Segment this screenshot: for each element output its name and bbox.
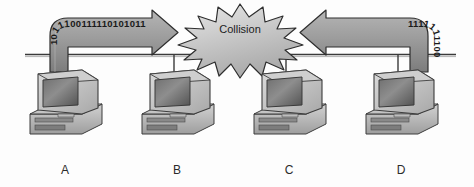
workstation-a bbox=[30, 70, 102, 134]
node-label-d: D bbox=[381, 163, 421, 177]
collision-burst bbox=[178, 4, 303, 78]
collision-label: Collision bbox=[195, 23, 285, 35]
node-label-a: A bbox=[45, 163, 85, 177]
workstation-d bbox=[366, 70, 438, 134]
workstation-c bbox=[254, 70, 326, 134]
node-label-b: B bbox=[157, 163, 197, 177]
frame-from-a: 1011100111110101011 bbox=[48, 10, 178, 72]
diagram-canvas: 1011100111110101011 111111110010010 bbox=[0, 0, 474, 187]
node-label-c: C bbox=[269, 163, 309, 177]
workstation-b bbox=[142, 70, 214, 134]
